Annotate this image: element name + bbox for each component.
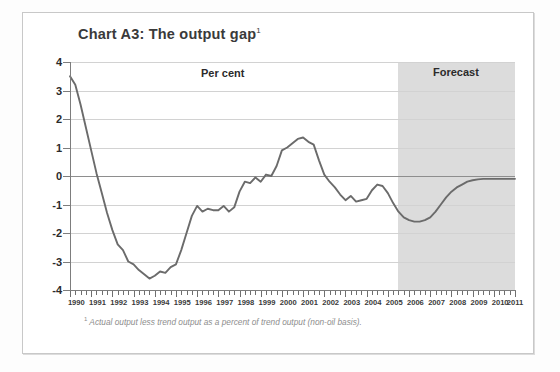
x-tick-major [345, 291, 346, 297]
x-tick-label: 2007 [428, 298, 445, 307]
y-tick-label: -3 [40, 256, 62, 268]
y-tick-label: 1 [40, 142, 62, 154]
x-tick-major [515, 291, 516, 297]
x-tick-minor [457, 291, 458, 295]
x-tick-minor [287, 291, 288, 295]
x-tick-minor [165, 291, 166, 295]
x-tick-minor [356, 291, 357, 295]
x-tick-minor [128, 291, 129, 295]
y-tick-label: -2 [40, 227, 62, 239]
y-tick-mark [63, 148, 70, 149]
x-tick-label: 2008 [449, 298, 466, 307]
x-tick-major [494, 291, 495, 297]
y-axis-labels: 43210-1-2-3-4 [34, 0, 62, 372]
x-tick-major [451, 291, 452, 297]
x-tick-minor [107, 291, 108, 295]
x-tick-label: 2011 [507, 298, 523, 307]
x-tick-minor [361, 291, 362, 295]
x-tick-minor [446, 291, 447, 295]
x-tick-minor [293, 291, 294, 295]
x-tick-minor [351, 291, 352, 295]
x-tick-minor [467, 291, 468, 295]
x-tick-minor [483, 291, 484, 295]
x-axis-labels: 1990199119921993199419951996199719981999… [0, 298, 560, 312]
x-tick-minor [478, 291, 479, 295]
x-tick-label: 2006 [407, 298, 424, 307]
y-tick-mark [63, 176, 70, 177]
chart-title: Chart A3: The output gap1 [78, 26, 261, 42]
x-tick-label: 1995 [174, 298, 191, 307]
x-tick-label: 1993 [131, 298, 148, 307]
x-tick-minor [298, 291, 299, 295]
y-tick-label: -4 [40, 284, 62, 296]
x-tick-minor [393, 291, 394, 295]
x-tick-major [70, 291, 71, 297]
x-tick-label: 1994 [153, 298, 170, 307]
x-tick-major [303, 291, 304, 297]
x-tick-label: 1992 [110, 298, 127, 307]
x-tick-minor [187, 291, 188, 295]
x-tick-major [367, 291, 368, 297]
x-tick-minor [277, 291, 278, 295]
x-tick-minor [123, 291, 124, 295]
x-tick-minor [499, 291, 500, 295]
x-tick-minor [224, 291, 225, 295]
y-tick-label: 3 [40, 85, 62, 97]
x-tick-minor [255, 291, 256, 295]
x-tick-major [155, 291, 156, 297]
x-tick-label: 1996 [195, 298, 212, 307]
x-tick-minor [489, 291, 490, 295]
x-tick-minor [81, 291, 82, 295]
x-tick-minor [510, 291, 511, 295]
y-tick-mark [63, 290, 70, 291]
x-tick-major [197, 291, 198, 297]
x-tick-major [112, 291, 113, 297]
x-tick-major [134, 291, 135, 297]
y-tick-mark [63, 91, 70, 92]
x-tick-label: 1991 [89, 298, 106, 307]
x-tick-minor [102, 291, 103, 295]
x-tick-minor [245, 291, 246, 295]
x-tick-minor [271, 291, 272, 295]
x-tick-minor [436, 291, 437, 295]
x-tick-minor [398, 291, 399, 295]
x-tick-major [388, 291, 389, 297]
x-tick-label: 2003 [343, 298, 360, 307]
x-tick-minor [149, 291, 150, 295]
x-tick-major [91, 291, 92, 297]
x-tick-minor [208, 291, 209, 295]
chart-title-superscript: 1 [256, 26, 261, 35]
x-tick-minor [96, 291, 97, 295]
y-axis [70, 62, 71, 291]
x-tick-minor [441, 291, 442, 295]
x-tick-minor [202, 291, 203, 295]
x-tick-label: 2001 [301, 298, 318, 307]
x-tick-label: 2002 [322, 298, 339, 307]
x-tick-minor [308, 291, 309, 295]
x-tick-major [473, 291, 474, 297]
footnote-superscript: 1 [84, 316, 87, 322]
x-tick-minor [266, 291, 267, 295]
x-tick-minor [314, 291, 315, 295]
x-tick-major [282, 291, 283, 297]
y-tick-label: -1 [40, 199, 62, 211]
x-tick-minor [462, 291, 463, 295]
x-tick-label: 2009 [471, 298, 488, 307]
output-gap-line [70, 62, 515, 290]
y-tick-mark [63, 205, 70, 206]
x-axis-ticks [70, 291, 516, 298]
chart-title-text: Chart A3: The output gap [78, 26, 256, 42]
x-tick-minor [181, 291, 182, 295]
x-tick-label: 2004 [365, 298, 382, 307]
x-tick-minor [139, 291, 140, 295]
x-tick-minor [229, 291, 230, 295]
x-tick-major [240, 291, 241, 297]
x-tick-minor [330, 291, 331, 295]
x-tick-minor [160, 291, 161, 295]
x-tick-minor [234, 291, 235, 295]
x-tick-major [261, 291, 262, 297]
unit-label: Per cent [201, 67, 244, 79]
x-tick-minor [118, 291, 119, 295]
x-tick-minor [404, 291, 405, 295]
y-tick-label: 0 [40, 170, 62, 182]
